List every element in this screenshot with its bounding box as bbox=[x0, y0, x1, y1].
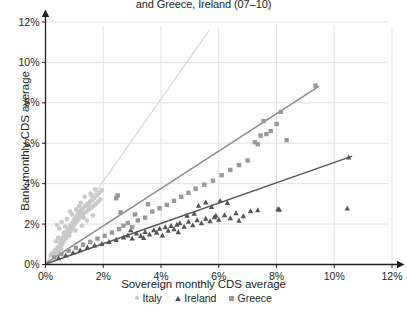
data-point-ireland bbox=[196, 203, 201, 208]
data-point-greece bbox=[130, 225, 134, 229]
y-axis-label: Bank monthly CDS average bbox=[19, 41, 31, 241]
data-point-ireland bbox=[177, 220, 182, 225]
y-tick-label: 0% bbox=[24, 258, 39, 270]
data-point-greece bbox=[74, 246, 78, 250]
data-point-italy bbox=[74, 207, 79, 212]
data-point-ireland bbox=[199, 220, 204, 225]
data-point-italy bbox=[91, 213, 96, 218]
data-point-ireland bbox=[92, 243, 97, 248]
chart-title: and Greece, Ireland (07–10) bbox=[0, 0, 407, 10]
data-point-italy bbox=[67, 234, 72, 239]
data-point-italy bbox=[89, 193, 94, 198]
legend-item-ireland[interactable]: Ireland bbox=[175, 293, 217, 304]
data-point-greece bbox=[136, 218, 140, 222]
data-point-greece bbox=[313, 83, 317, 87]
data-point-greece bbox=[52, 255, 56, 259]
data-point-greece bbox=[269, 129, 273, 133]
data-point-ireland bbox=[186, 219, 191, 224]
data-point-ireland bbox=[190, 222, 195, 227]
data-point-italy bbox=[86, 203, 91, 208]
legend-marker-square-icon bbox=[229, 296, 234, 301]
data-point-greece bbox=[219, 173, 223, 177]
data-point-greece bbox=[228, 168, 232, 172]
data-point-ireland bbox=[345, 206, 350, 211]
legend-marker-triangle-icon bbox=[175, 296, 181, 301]
data-point-greece bbox=[193, 187, 197, 191]
legend-label: Ireland bbox=[184, 293, 216, 304]
data-point-greece bbox=[115, 193, 119, 197]
data-point-italy bbox=[73, 228, 78, 233]
data-point-greece bbox=[59, 252, 63, 256]
data-point-greece bbox=[133, 212, 137, 216]
data-point-greece bbox=[157, 206, 161, 210]
data-point-italy bbox=[62, 230, 67, 235]
data-point-greece bbox=[66, 249, 70, 253]
data-point-greece bbox=[143, 215, 147, 219]
data-point-italy bbox=[93, 187, 98, 192]
data-point-greece bbox=[88, 240, 92, 244]
data-point-italy bbox=[59, 220, 64, 225]
data-point-greece bbox=[150, 209, 154, 213]
data-point-greece bbox=[256, 142, 260, 146]
tick-labels: 0%2%4%6%8%10%12%0%2%4%6%8%10%12% bbox=[18, 16, 402, 282]
data-point-italy bbox=[56, 236, 61, 241]
y-tick-label: 12% bbox=[18, 16, 39, 28]
data-point-italy bbox=[68, 209, 73, 214]
data-point-ireland bbox=[194, 217, 199, 222]
data-point-italy bbox=[78, 201, 83, 206]
axes bbox=[46, 16, 399, 265]
legend-label: Italy bbox=[143, 293, 162, 304]
data-point-greece bbox=[110, 230, 114, 234]
data-point-greece bbox=[261, 119, 265, 123]
data-point-greece bbox=[117, 227, 121, 231]
data-point-greece bbox=[118, 210, 122, 214]
data-point-ireland bbox=[85, 245, 90, 250]
x-axis-label: Sovereign monthly CDS average bbox=[0, 278, 407, 290]
data-point-ireland bbox=[203, 216, 208, 221]
data-point-greece bbox=[165, 203, 169, 207]
data-point-greece bbox=[179, 195, 183, 199]
data-point-ireland bbox=[151, 227, 156, 232]
data-point-ireland bbox=[176, 229, 181, 234]
data-point-italy bbox=[63, 224, 68, 229]
plot-area: 0%2%4%6%8%10%12%0%2%4%6%8%10%12% bbox=[0, 0, 407, 312]
data-point-ireland bbox=[163, 224, 168, 229]
data-point-greece bbox=[126, 221, 130, 225]
data-point-italy bbox=[100, 188, 105, 193]
legend-label: Greece bbox=[237, 293, 271, 304]
data-point-ireland bbox=[203, 199, 208, 204]
data-point-greece bbox=[274, 122, 278, 126]
data-point-greece bbox=[172, 199, 176, 203]
data-point-greece bbox=[95, 236, 99, 240]
data-point-ireland bbox=[70, 250, 75, 255]
data-point-greece bbox=[284, 138, 288, 142]
data-point-greece bbox=[186, 191, 190, 195]
data-point-italy bbox=[82, 195, 87, 200]
data-point-greece bbox=[146, 202, 150, 206]
data-point-greece bbox=[258, 133, 262, 137]
data-point-ireland bbox=[222, 212, 227, 217]
data-point-italy bbox=[59, 246, 64, 251]
legend-item-greece[interactable]: Greece bbox=[229, 293, 271, 304]
data-point-italy bbox=[81, 215, 86, 220]
data-point-greece bbox=[102, 234, 106, 238]
trendlines bbox=[47, 31, 352, 263]
data-point-greece bbox=[264, 132, 268, 136]
data-point-ireland bbox=[248, 208, 253, 213]
data-point-greece bbox=[202, 182, 206, 186]
data-point-italy bbox=[65, 217, 70, 222]
data-point-italy bbox=[57, 226, 62, 231]
data-point-italy bbox=[80, 223, 85, 228]
data-point-ireland bbox=[233, 210, 238, 215]
data-point-greece bbox=[237, 163, 241, 167]
data-point-ireland bbox=[77, 247, 82, 252]
data-point-ireland bbox=[236, 218, 241, 223]
chart-legend: ItalyIrelandGreece bbox=[0, 293, 407, 304]
gridlines bbox=[46, 22, 393, 265]
data-point-greece bbox=[245, 158, 249, 162]
legend-item-italy[interactable]: Italy bbox=[135, 293, 162, 304]
data-point-greece bbox=[211, 178, 215, 182]
data-point-ireland bbox=[241, 213, 246, 218]
data-point-greece bbox=[121, 224, 125, 228]
data-point-greece bbox=[279, 110, 283, 114]
